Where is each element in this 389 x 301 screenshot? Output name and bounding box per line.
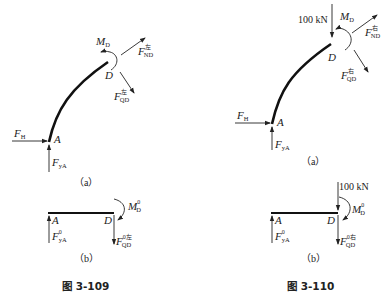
label-FQD: F右QD (340, 67, 356, 82)
fig110-panel-a: 100 kN FH A FyA MD D F右ND F右QD （a） (235, 4, 380, 167)
label-FyA: FyA (274, 138, 290, 151)
point-D: D (327, 51, 336, 63)
figure-3-109: FH A FyA MD D F左ND F左QD （a） A F0yA D F0左… (12, 35, 153, 292)
point-D: D (326, 214, 335, 226)
figure-3-110: 100 kN FH A FyA MD D F右ND F右QD （a） 100 k… (235, 4, 380, 292)
point-A: A (276, 116, 284, 128)
label-FQD0: F0左QD (115, 233, 132, 248)
label-FND: F左ND (137, 43, 153, 58)
label-FH: FH (13, 127, 26, 140)
panel-label-a: （a） (74, 177, 98, 188)
load-label: 100 kN (298, 14, 328, 25)
point-D: D (104, 69, 113, 81)
force-arrow-FQD (354, 50, 368, 72)
label-FyA0: F0yA (51, 229, 67, 243)
label-FyA0: F0yA (274, 229, 290, 243)
point-A: A (274, 214, 282, 226)
panel-label-b: （b） (301, 253, 326, 264)
label-FH: FH (236, 109, 249, 122)
label-FQD0: F0右QD (339, 233, 356, 248)
moment-arrow-MD0 (339, 197, 350, 220)
point-A: A (51, 214, 59, 226)
arch-member (272, 44, 331, 124)
moment-arrow-MD (336, 28, 351, 50)
fig109-panel-b: A F0yA D F0左QD M0D （b） (48, 199, 141, 264)
label-FND: F右ND (364, 24, 380, 39)
panel-label-b: （b） (74, 253, 99, 264)
label-MD: MD (95, 35, 110, 48)
moment-arrow-MD0 (114, 199, 124, 220)
fig110-panel-b: 100 kN A F0yA D F0右QD M0D （b） (271, 181, 369, 264)
point-A: A (53, 133, 61, 145)
figure-caption: 图 3-110 (287, 280, 334, 292)
panel-label-a: （a） (301, 156, 325, 167)
label-MD0: M0D (127, 199, 141, 213)
fig109-panel-a: FH A FyA MD D F左ND F左QD （a） (12, 35, 153, 188)
label-MD: MD (339, 10, 354, 23)
moment-arrow-MD (101, 51, 117, 70)
label-MD0: M0D (351, 202, 365, 216)
point-D: D (103, 214, 112, 226)
label-FyA: FyA (51, 156, 67, 169)
load-label: 100 kN (339, 181, 369, 192)
label-FQD: F左QD (113, 88, 129, 103)
figure-caption: 图 3-109 (62, 280, 109, 292)
diagram-canvas: FH A FyA MD D F左ND F左QD （a） A F0yA D F0左… (0, 0, 389, 301)
arch-member (49, 62, 108, 142)
